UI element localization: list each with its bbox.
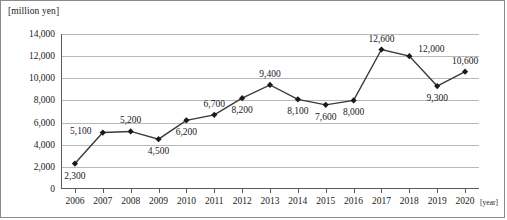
data-point-label: 12,600	[368, 34, 394, 44]
data-point-label: 8,200	[231, 105, 252, 115]
x-axis-tick-mark	[409, 189, 410, 193]
x-axis-tick-mark	[75, 189, 76, 193]
x-axis-tick-mark	[270, 189, 271, 193]
data-point-label: 12,000	[418, 44, 444, 54]
x-axis-tick-mark	[298, 189, 299, 193]
x-axis-tick-mark	[437, 189, 438, 193]
data-series-line	[61, 34, 479, 189]
x-axis-tick-mark	[354, 189, 355, 193]
data-point-label: 5,100	[70, 126, 91, 136]
data-point-marker	[323, 102, 329, 108]
data-point-label: 7,600	[315, 112, 336, 122]
x-axis-tick-mark	[242, 189, 243, 193]
data-point-label: 6,200	[176, 127, 197, 137]
chart-frame: [million yen] 02,0004,0006,0008,00010,00…	[0, 0, 505, 218]
y-axis-tick-label: 0	[3, 184, 55, 194]
x-axis-tick-mark	[103, 189, 104, 193]
x-axis-unit-label: [year]	[480, 198, 498, 207]
x-axis-tick-mark	[214, 189, 215, 193]
x-axis-tick-label: 2016	[344, 196, 363, 206]
x-axis-tick-label: 2017	[372, 196, 391, 206]
x-axis-tick-label: 2006	[65, 196, 84, 206]
x-axis-tick-label: 2011	[205, 196, 224, 206]
y-axis-tick-label: 6,000	[3, 118, 55, 128]
x-axis-tick-label: 2019	[428, 196, 447, 206]
x-axis-tick-label: 2009	[149, 196, 168, 206]
data-point-marker	[462, 69, 468, 75]
y-axis-tick-label: 10,000	[3, 73, 55, 83]
x-axis-tick-mark	[465, 189, 466, 193]
data-point-label: 8,100	[287, 106, 308, 116]
x-axis-tick-label: 2010	[177, 196, 196, 206]
y-axis-tick-label: 8,000	[3, 95, 55, 105]
x-axis-tick-mark	[381, 189, 382, 193]
data-point-label: 2,300	[64, 171, 85, 181]
y-axis-tick-label: 4,000	[3, 140, 55, 150]
data-point-label: 9,300	[427, 93, 448, 103]
y-axis-unit-label: [million yen]	[8, 6, 59, 16]
data-point-label: 8,000	[343, 107, 364, 117]
data-point-marker	[267, 82, 273, 88]
x-axis-tick-label: 2012	[233, 196, 252, 206]
data-point-label: 5,200	[120, 115, 141, 125]
x-axis-tick-label: 2008	[121, 196, 140, 206]
data-point-marker	[239, 95, 245, 101]
data-point-label: 10,600	[452, 56, 478, 66]
x-axis-tick-mark	[326, 189, 327, 193]
data-point-marker	[351, 97, 357, 103]
x-axis-tick-label: 2020	[456, 196, 475, 206]
y-axis-tick-label: 12,000	[3, 51, 55, 61]
data-point-marker	[128, 128, 134, 134]
data-point-label: 9,400	[259, 69, 280, 79]
y-axis-tick-label: 2,000	[3, 162, 55, 172]
data-point-marker	[378, 46, 384, 52]
x-axis-tick-mark	[159, 189, 160, 193]
x-axis-tick-label: 2015	[316, 196, 335, 206]
data-point-marker	[211, 112, 217, 118]
x-axis-tick-mark	[186, 189, 187, 193]
data-point-label: 6,700	[204, 99, 225, 109]
x-axis-tick-label: 2018	[400, 196, 419, 206]
x-axis-tick-label: 2007	[93, 196, 112, 206]
x-axis-tick-label: 2014	[288, 196, 307, 206]
x-axis-tick-mark	[131, 189, 132, 193]
x-axis-tick-label: 2013	[261, 196, 280, 206]
plot-area: 02,0004,0006,0008,00010,00012,00014,000 …	[61, 34, 479, 189]
data-point-label: 4,500	[148, 146, 169, 156]
data-point-marker	[295, 96, 301, 102]
y-axis-tick-label: 14,000	[3, 29, 55, 39]
